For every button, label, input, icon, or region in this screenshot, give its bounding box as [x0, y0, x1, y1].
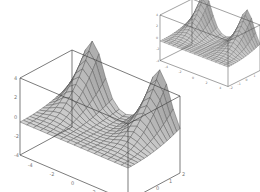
- y-tick-label: -2: [230, 86, 233, 90]
- z-tick-label: 4: [156, 13, 158, 17]
- z-tick-label: 0: [156, 36, 158, 40]
- surface-mesh: [160, 0, 260, 67]
- y-tick-label: -1: [238, 82, 241, 86]
- z-tick-label: 2: [156, 24, 158, 28]
- z-tick-label: -2: [156, 47, 159, 51]
- x-tick-label: 4: [219, 86, 221, 90]
- x-tick-label: -2: [178, 70, 181, 74]
- z-tick-label: -4: [156, 59, 159, 63]
- x-tick-label: 0: [192, 76, 194, 80]
- y-tick-label: 1: [254, 74, 256, 78]
- y-tick-label: 0: [246, 78, 248, 82]
- x-tick-label: -4: [165, 65, 168, 69]
- surface-plot-small: -4-2024-2-1012420-2-4: [0, 0, 260, 192]
- x-tick-label: 2: [206, 81, 208, 85]
